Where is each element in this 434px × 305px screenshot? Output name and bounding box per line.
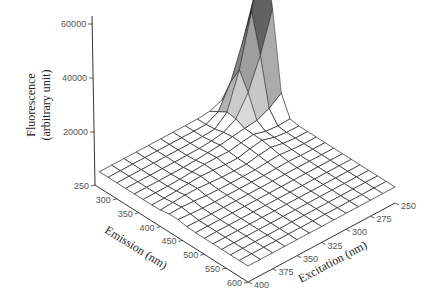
surface-chart: 2000040000600002503003504004505005506002… — [0, 0, 434, 305]
excitation-tick-mark — [273, 269, 277, 271]
excitation-tick-label: 400 — [254, 280, 269, 290]
emission-axis-title: Emission (nm) — [102, 223, 170, 272]
z-tick-label: 60000 — [61, 19, 86, 29]
emission-tick-mark — [244, 282, 248, 283]
emission-tick-label: 300 — [96, 195, 111, 205]
emission-tick-mark — [113, 199, 117, 200]
emission-tick-label: 400 — [140, 223, 155, 233]
excitation-tick-label: 375 — [279, 267, 294, 277]
z-axis-title-line2: (arbitrary unit) — [39, 70, 53, 141]
z-tick-label: 20000 — [63, 127, 88, 137]
excitation-tick-mark — [371, 216, 375, 218]
emission-tick-label: 500 — [183, 250, 198, 260]
emission-tick-mark — [178, 240, 182, 241]
emission-tick-label: 550 — [205, 264, 220, 274]
emission-tick-mark — [200, 254, 204, 255]
excitation-tick-label: 250 — [401, 201, 416, 211]
emission-tick-mark — [91, 185, 95, 186]
emission-tick-mark — [222, 268, 226, 269]
emission-tick-label: 600 — [227, 278, 242, 288]
z-axis-line — [92, 16, 95, 185]
emission-tick-label: 450 — [161, 236, 176, 246]
emission-tick-mark — [157, 227, 161, 228]
excitation-tick-mark — [248, 282, 252, 284]
emission-tick-mark — [135, 213, 139, 214]
excitation-tick-mark — [297, 256, 301, 258]
z-tick-label: 40000 — [62, 73, 87, 83]
excitation-tick-mark — [322, 243, 326, 245]
emission-tick-label: 350 — [118, 209, 133, 219]
emission-tick-label: 250 — [74, 181, 89, 191]
excitation-tick-mark — [346, 229, 350, 231]
z-axis-title-line1: Fluorescence — [24, 73, 38, 136]
z-axis-title: Fluorescence (arbitrary unit) — [24, 70, 53, 141]
excitation-tick-label: 275 — [377, 214, 392, 224]
excitation-tick-mark — [395, 203, 399, 205]
excitation-tick-label: 300 — [352, 227, 367, 237]
